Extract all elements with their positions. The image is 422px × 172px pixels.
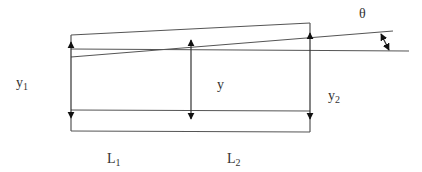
L2-label: L2 bbox=[227, 151, 241, 168]
theta-label: θ bbox=[359, 6, 366, 21]
y-label: y bbox=[217, 77, 224, 92]
y2-label: y2 bbox=[328, 88, 340, 105]
bed-bottom-line bbox=[71, 131, 310, 132]
y1-label: y1 bbox=[16, 75, 28, 92]
channel-slope-diagram: θ y1 y y2 L1 L2 bbox=[0, 0, 422, 172]
horizontal-datum-line bbox=[71, 49, 409, 51]
L1-label: L1 bbox=[107, 151, 121, 168]
theta-angle-arrow bbox=[381, 34, 389, 50]
top-surface-line bbox=[71, 23, 310, 35]
water-surface-line bbox=[71, 31, 393, 57]
